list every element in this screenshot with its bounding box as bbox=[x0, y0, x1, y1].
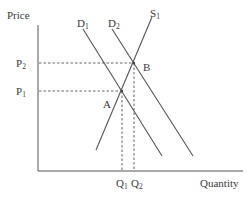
p1-label: P1 bbox=[16, 85, 26, 99]
equilibrium-point-a bbox=[121, 90, 123, 92]
equilibrium-point-b bbox=[133, 62, 135, 64]
q1-label: Q1 bbox=[116, 177, 128, 191]
demand-curve-d2 bbox=[112, 29, 193, 156]
y-axis-label: Price bbox=[7, 9, 30, 21]
supply-demand-diagram: Price Quantity D1 D2 S1 A B P2 P1 Q1 Q2 bbox=[0, 0, 252, 197]
d1-label: D1 bbox=[77, 17, 89, 31]
s1-label: S1 bbox=[150, 7, 160, 21]
point-a-label: A bbox=[103, 98, 111, 110]
q2-label: Q2 bbox=[131, 177, 143, 191]
demand-curve-d1 bbox=[83, 29, 162, 156]
d2-label: D2 bbox=[108, 17, 120, 31]
point-b-label: B bbox=[143, 61, 150, 73]
p2-label: P2 bbox=[16, 57, 26, 71]
supply-curve-s1 bbox=[96, 17, 152, 150]
x-axis-label: Quantity bbox=[200, 177, 239, 189]
